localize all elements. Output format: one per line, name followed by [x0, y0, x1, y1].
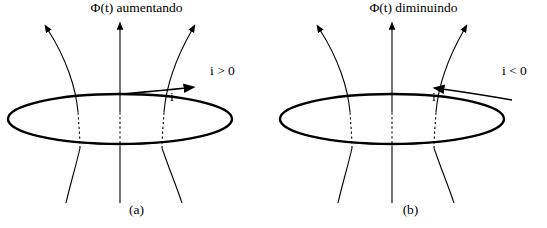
current-letter-b: i	[432, 89, 436, 105]
field-lines-below-b	[338, 148, 454, 203]
panel-b-artwork	[274, 0, 547, 228]
current-sign-a: i > 0	[210, 63, 235, 79]
panel-caption-b: (b)	[274, 202, 547, 218]
panel-b: Φ(t) diminuindo	[274, 0, 547, 228]
current-letter-a: i	[170, 89, 174, 105]
panel-a-artwork	[0, 0, 273, 228]
induction-figure: Φ(t) aumentando	[0, 0, 547, 228]
current-sign-b: i < 0	[502, 63, 527, 79]
panel-caption-a: (a)	[0, 202, 273, 218]
field-lines-below-a	[66, 148, 182, 203]
panel-a: Φ(t) aumentando	[0, 0, 273, 228]
field-lines-above-b	[320, 28, 464, 112]
current-arrow-a	[122, 88, 186, 94]
